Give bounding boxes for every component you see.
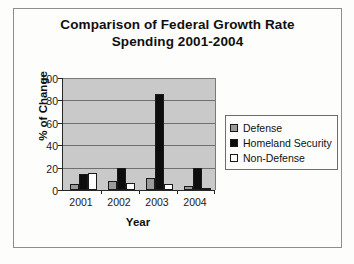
- bar-2002-homeland-security[interactable]: [117, 168, 126, 190]
- bar-2002-non-defense[interactable]: [126, 183, 135, 190]
- x-tick-mark-3: [177, 190, 178, 194]
- chart-title-line-2: Spending 2001-2004: [20, 33, 335, 50]
- bar-2001-homeland-security[interactable]: [79, 174, 88, 190]
- bar-cluster-2003: [139, 78, 177, 190]
- bar-cluster-2004: [177, 78, 215, 190]
- x-tick-mark-4: [214, 190, 215, 194]
- bar-2004-non-defense[interactable]: [202, 188, 211, 190]
- y-axis-title: % of Change: [37, 51, 49, 161]
- bar-2003-defense[interactable]: [146, 178, 155, 190]
- bars-group: [63, 78, 215, 190]
- legend-item-non-defense[interactable]: Non-Defense: [230, 150, 332, 165]
- legend-swatch-non-defense-icon: [230, 154, 238, 162]
- bar-cluster-2001: [63, 78, 101, 190]
- bar-2001-non-defense[interactable]: [88, 173, 97, 190]
- legend-swatch-homeland-security-icon: [230, 139, 238, 147]
- legend-swatch-defense-icon: [230, 124, 238, 132]
- bar-2004-defense[interactable]: [184, 186, 193, 191]
- chart-title-line-1: Comparison of Federal Growth Rate: [20, 16, 335, 33]
- legend-label-homeland-security: Homeland Security: [243, 137, 332, 149]
- chart-title: Comparison of Federal Growth Rate Spendi…: [20, 16, 335, 50]
- bar-2003-non-defense[interactable]: [164, 184, 173, 190]
- bar-2004-homeland-security[interactable]: [193, 168, 202, 190]
- x-axis-title: Year: [62, 216, 214, 228]
- bar-2002-defense[interactable]: [108, 181, 117, 190]
- chart-legend: Defense Homeland Security Non-Defense: [225, 115, 338, 170]
- x-tick-label-2002: 2002: [99, 196, 139, 208]
- x-tick-label-2001: 2001: [61, 196, 101, 208]
- legend-label-defense: Defense: [243, 122, 282, 134]
- bar-cluster-2002: [101, 78, 139, 190]
- bar-2003-homeland-security[interactable]: [155, 94, 164, 190]
- x-tick-label-2003: 2003: [137, 196, 177, 208]
- plot-area: [62, 78, 215, 191]
- chart-figure: Comparison of Federal Growth Rate Spendi…: [0, 0, 354, 264]
- y-tick-label-20: 20: [32, 164, 58, 174]
- x-tick-mark-2: [139, 190, 140, 194]
- legend-item-homeland-security[interactable]: Homeland Security: [230, 135, 332, 150]
- x-tick-mark-1: [101, 190, 102, 194]
- x-tick-label-2004: 2004: [175, 196, 215, 208]
- legend-item-defense[interactable]: Defense: [230, 120, 332, 135]
- legend-label-non-defense: Non-Defense: [243, 152, 305, 164]
- bar-2001-defense[interactable]: [70, 184, 79, 190]
- y-tick-label-0: 0: [32, 186, 58, 196]
